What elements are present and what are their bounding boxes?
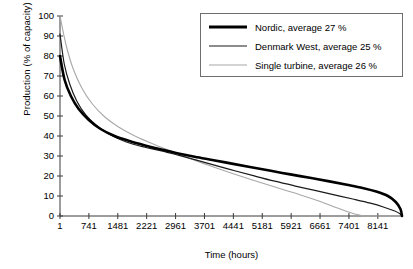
legend-item-single-turbine: Single turbine, average 26 %	[209, 58, 377, 72]
legend-line-single-turbine	[209, 58, 247, 72]
duration-curve-chart: 0102030405060708090100 17411481222129613…	[0, 0, 413, 269]
legend: Nordic, average 27 % Denmark West, avera…	[200, 13, 403, 77]
x-axis-title: Time (hours)	[60, 249, 403, 260]
legend-item-denmark-west: Denmark West, average 25 %	[209, 39, 382, 53]
y-tick-label: 20	[28, 171, 54, 181]
legend-item-nordic: Nordic, average 27 %	[209, 20, 346, 34]
legend-line-nordic	[209, 20, 247, 34]
x-tick-label: 8141	[358, 221, 398, 231]
y-tick-label: 0	[28, 211, 54, 221]
legend-label-single-turbine: Single turbine, average 26 %	[247, 60, 377, 71]
legend-label-denmark-west: Denmark West, average 25 %	[247, 41, 382, 52]
legend-line-denmark-west	[209, 39, 247, 53]
legend-label-nordic: Nordic, average 27 %	[247, 22, 346, 33]
y-tick-label: 10	[28, 191, 54, 201]
y-tick-label: 30	[28, 151, 54, 161]
series-line-nordic	[60, 56, 402, 216]
y-axis-title: Production (% of capacity)	[21, 0, 35, 139]
